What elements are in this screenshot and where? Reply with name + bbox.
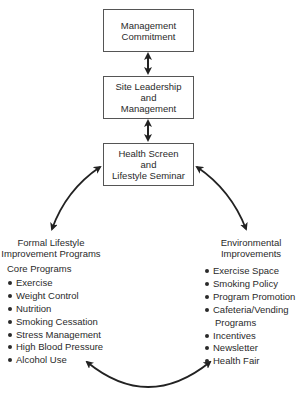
list-item-label: High Blood Pressure [16,341,103,352]
arrow-formal-programs-to-environmental [87,362,210,387]
list-item: Exercise Space [204,265,295,278]
environmental-list: Exercise Space Smoking Policy Program Pr… [204,265,295,368]
list-item: Newsletter [204,342,295,355]
bullet-icon [8,294,12,298]
core-programs-list: Core Programs Exercise Weight Control Nu… [7,263,103,367]
list-item: Exercise [7,277,103,290]
list-item: Cafeteria/Vending [204,304,295,317]
list-item-label: Cafeteria/Vending [213,304,289,315]
arrow-healthscreen-to-formal-programs [52,167,100,229]
bullet-icon [205,346,209,350]
heading-line: Formal Lifestyle [0,237,102,248]
list-item-label: Smoking Cessation [16,316,98,327]
bullet-icon [8,307,12,311]
arrow-healthscreen-to-environmental [197,167,246,229]
list-item: High Blood Pressure [7,341,103,354]
bullet-icon [8,345,12,349]
list-item-label: Programs [215,317,256,328]
heading-line: Improvements [210,248,292,259]
list-item-label: Stress Management [16,329,101,340]
list-item: Stress Management [7,329,103,342]
bullet-icon [205,308,209,312]
list-item-label: Nutrition [16,303,51,314]
list-item: Smoking Policy [204,278,295,291]
bullet-icon [8,358,12,362]
list-item-label: Weight Control [16,290,79,301]
bullet-icon [205,269,209,273]
list-item-label: Program Promotion [213,291,295,302]
core-programs-subheading: Core Programs [7,263,103,276]
list-item-continuation: Programs [204,317,295,330]
list-item: Health Fair [204,355,295,368]
box-line: Lifestyle Seminar [112,170,185,181]
bullet-icon [205,359,209,363]
box-health-screen: Health Screen and Lifestyle Seminar [103,143,194,186]
list-item: Alcohol Use [7,354,103,367]
heading-line: Improvement Programs [0,248,102,259]
box-management-commitment: Management Commitment [103,9,194,52]
bullet-icon [8,320,12,324]
box-line: and [141,92,157,103]
list-item-label: Incentives [213,330,256,341]
list-item: Program Promotion [204,291,295,304]
list-item-label: Alcohol Use [16,354,67,365]
box-line: Site Leadership [115,81,181,92]
list-item-label: Exercise [16,277,52,288]
heading-line: Environmental [210,237,292,248]
bullet-icon [205,282,209,286]
bullet-icon [8,281,12,285]
box-line: Commitment [122,31,176,42]
box-line: Management [121,20,176,31]
box-site-leadership: Site Leadership and Management [103,76,194,119]
box-line: Management [121,103,176,114]
list-item: Weight Control [7,290,103,303]
list-item-label: Health Fair [213,355,259,366]
list-item: Incentives [204,330,295,343]
box-line: Health Screen [118,148,178,159]
list-item: Nutrition [7,303,103,316]
environmental-heading: Environmental Improvements [210,237,292,259]
list-item: Smoking Cessation [7,316,103,329]
list-item-label: Exercise Space [213,265,279,276]
formal-programs-heading: Formal Lifestyle Improvement Programs [0,237,102,259]
bullet-icon [8,333,12,337]
list-item-label: Newsletter [213,342,258,353]
box-line: and [141,159,157,170]
bullet-icon [205,334,209,338]
list-item-label: Smoking Policy [213,278,278,289]
bullet-icon [205,295,209,299]
